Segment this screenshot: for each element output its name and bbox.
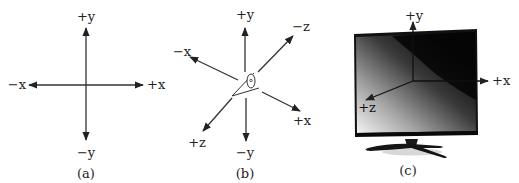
- neg-z-axis: [258, 36, 293, 72]
- caption-c: (c): [399, 163, 416, 178]
- label-pos-x: +x: [293, 113, 312, 128]
- eye-icon: [232, 73, 259, 96]
- panel-b: +y −y −x −z +x +z (b): [173, 7, 312, 181]
- label-neg-x: −x: [8, 77, 27, 92]
- label-pos-y: +y: [405, 8, 424, 23]
- pos-z-axis: [203, 98, 232, 131]
- label-pos-z: +z: [188, 135, 206, 150]
- coordinate-systems-figure: +y −y −x +x (a) +y −y −x −z +x +z (b): [0, 0, 519, 183]
- label-neg-y: −y: [236, 145, 255, 160]
- pos-x-axis: [262, 92, 300, 111]
- tv-stand: [365, 139, 446, 158]
- caption-a: (a): [77, 166, 95, 181]
- label-neg-z: −z: [292, 19, 310, 34]
- label-pos-y: +y: [236, 7, 255, 22]
- panel-c: +y +x +z (c): [354, 8, 511, 178]
- neg-x-axis: [190, 57, 238, 80]
- label-neg-y: −y: [77, 145, 96, 160]
- label-neg-x: −x: [173, 44, 192, 59]
- label-pos-z: +z: [358, 100, 376, 115]
- label-pos-x: +x: [147, 77, 166, 92]
- label-pos-x: +x: [492, 73, 511, 88]
- panel-a: +y −y −x +x (a): [8, 9, 166, 181]
- caption-b: (b): [236, 166, 254, 181]
- label-pos-y: +y: [77, 9, 96, 24]
